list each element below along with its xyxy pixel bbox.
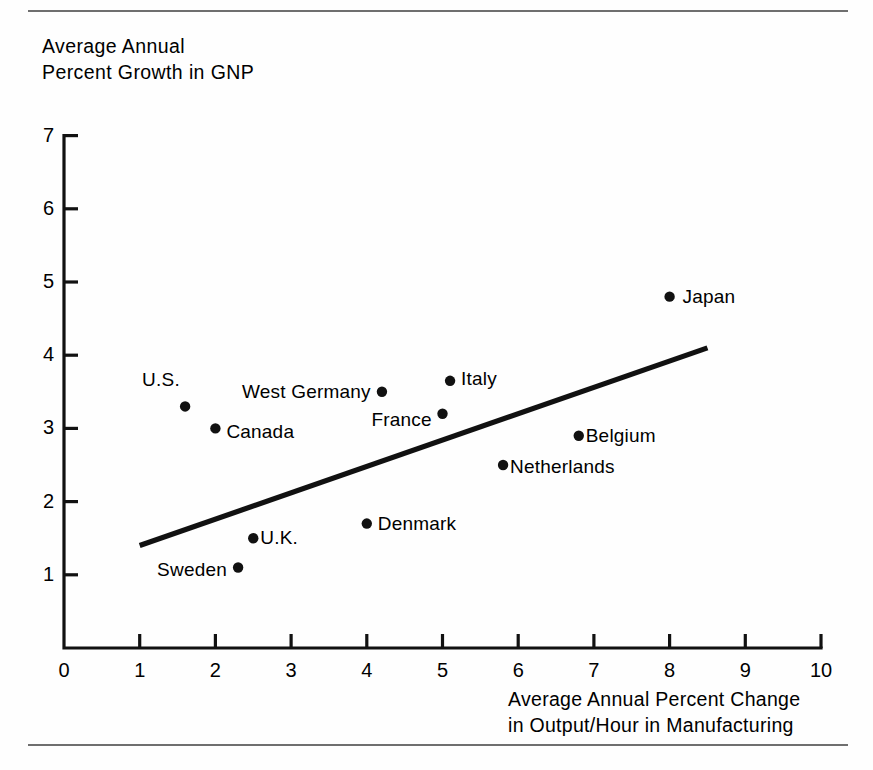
x-tick-label-3: 3: [276, 660, 306, 680]
x-tick-label-8: 8: [655, 660, 685, 680]
point-label-denmark: Denmark: [378, 514, 456, 533]
x-tick-label-0: 0: [49, 660, 79, 680]
data-point: [233, 562, 243, 572]
y-tick-label-7: 7: [28, 125, 54, 145]
point-label-netherlands: Netherlands: [510, 457, 615, 476]
plot-canvas: [0, 0, 873, 700]
x-tick-label-5: 5: [428, 660, 458, 680]
x-tick-label-9: 9: [730, 660, 760, 680]
data-point: [437, 409, 447, 419]
y-tick-label-3: 3: [28, 417, 54, 437]
point-label-west-germany: West Germany: [242, 382, 371, 401]
point-label-sweden: Sweden: [157, 560, 227, 579]
data-point: [362, 518, 372, 528]
point-label-u-k: U.K.: [260, 528, 298, 547]
figure-page: Average Annual Percent Growth in GNP Ave…: [0, 0, 873, 770]
x-tick-label-4: 4: [352, 660, 382, 680]
y-tick-label-5: 5: [28, 271, 54, 291]
data-point: [664, 291, 674, 301]
y-tick-label-2: 2: [28, 491, 54, 511]
point-label-u-s: U.S.: [142, 370, 180, 389]
scatter-plot: Average Annual Percent Growth in GNP Ave…: [0, 0, 873, 700]
data-point: [180, 401, 190, 411]
data-point: [498, 460, 508, 470]
data-point: [574, 431, 584, 441]
page-rule-bottom: [28, 744, 848, 746]
data-point: [248, 533, 258, 543]
x-tick-label-6: 6: [503, 660, 533, 680]
point-label-france: France: [372, 410, 432, 429]
point-label-canada: Canada: [226, 422, 294, 441]
x-tick-label-2: 2: [200, 660, 230, 680]
y-tick-label-6: 6: [28, 198, 54, 218]
point-label-japan: Japan: [683, 287, 736, 306]
data-point: [377, 387, 387, 397]
x-tick-label-7: 7: [579, 660, 609, 680]
x-tick-label-10: 10: [806, 660, 836, 680]
data-point: [445, 376, 455, 386]
point-label-italy: Italy: [461, 369, 497, 388]
data-point: [210, 423, 220, 433]
y-tick-label-1: 1: [28, 564, 54, 584]
x-tick-label-1: 1: [125, 660, 155, 680]
y-tick-label-4: 4: [28, 344, 54, 364]
point-label-belgium: Belgium: [586, 426, 656, 445]
